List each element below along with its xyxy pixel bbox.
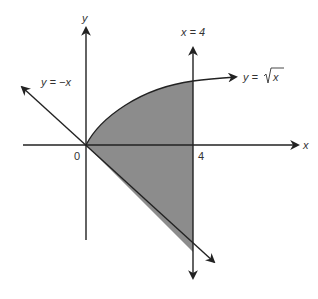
sqrt-label-radicand: x <box>272 71 279 83</box>
label-y-equals-sqrt-x: y = x <box>242 68 284 83</box>
region-diagram: y x 0 4 x = 4 y = −x y = x <box>0 0 318 299</box>
x-tick-4-label: 4 <box>198 150 204 162</box>
origin-label: 0 <box>74 150 80 162</box>
label-y-equals-neg-x: y = −x <box>40 76 71 88</box>
shaded-region <box>86 81 193 252</box>
label-x-equals-4: x = 4 <box>180 26 205 38</box>
sqrt-label-prefix: y = <box>242 71 259 83</box>
diagram-canvas: y x 0 4 x = 4 y = −x y = x <box>0 0 318 299</box>
x-axis-label: x <box>302 139 309 151</box>
y-axis-label: y <box>81 12 89 24</box>
